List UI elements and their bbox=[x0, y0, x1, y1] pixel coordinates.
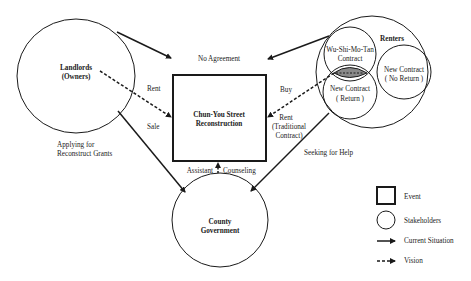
event-sublabel: Reconstruction bbox=[196, 120, 243, 128]
legend-vision-label: Vision bbox=[404, 257, 423, 265]
buy-label: Buy bbox=[280, 86, 292, 94]
legend-current-label: Current Situation bbox=[404, 237, 454, 245]
seeking-help-label: Seeking for Help bbox=[304, 149, 354, 157]
arrow-renters-event-vision bbox=[268, 73, 334, 117]
rent-right-label-1: Rent bbox=[279, 114, 293, 122]
counseling-label: Counseling bbox=[223, 167, 256, 175]
legend-stakeholders-label: Stakeholders bbox=[404, 217, 441, 225]
landlords-label: Landlords bbox=[60, 64, 92, 72]
sale-label: Sale bbox=[147, 123, 159, 131]
new-no-return-label: New Contract bbox=[384, 66, 424, 74]
rent-right-label-3: Contract) bbox=[275, 132, 303, 140]
arrow-renters-no-agreement bbox=[268, 36, 329, 59]
legend-event-label: Event bbox=[404, 193, 421, 201]
new-no-return-sublabel: ( No Return ) bbox=[385, 75, 424, 83]
event-label: Chun-You Street bbox=[193, 111, 245, 119]
applying-label-2: Reconstruct Grants bbox=[57, 150, 112, 158]
assistant-label: Assistant bbox=[187, 167, 213, 175]
no-agreement-label: No Agreement bbox=[198, 55, 240, 63]
legend-stakeholders-icon bbox=[377, 211, 395, 229]
arrow-landlords-event-vision bbox=[100, 71, 171, 117]
wu-shi-mo-tan-sublabel: Contract bbox=[338, 55, 363, 63]
legend-event-icon bbox=[377, 187, 395, 204]
event-box: Chun-You Street Reconstruction bbox=[173, 75, 266, 161]
new-return-label: New Contract bbox=[330, 85, 370, 93]
stakeholder-diagram: Landlords (Owners) Chun-You Street Recon… bbox=[0, 0, 471, 281]
county-sublabel: Government bbox=[201, 227, 240, 235]
rent-left-label: Rent bbox=[147, 85, 161, 93]
legend: Event Stakeholders Current Situation Vis… bbox=[377, 187, 454, 265]
wu-shi-mo-tan-label: Wu-Shi-Mo-Tan bbox=[326, 46, 374, 54]
renters-title: Renters bbox=[380, 35, 404, 43]
landlords-sublabel: (Owners) bbox=[62, 73, 91, 81]
rent-right-label-2: (Traditional bbox=[272, 123, 306, 131]
landlords-stakeholder: Landlords (Owners) bbox=[17, 19, 135, 133]
applying-label-1: Applying for bbox=[57, 141, 95, 149]
new-return-sublabel: ( Return ) bbox=[336, 95, 365, 103]
county-stakeholder: County Government bbox=[172, 173, 268, 267]
renters-stakeholder: Renters Wu-Shi-Mo-Tan Contract New Contr… bbox=[316, 16, 431, 128]
county-label: County bbox=[209, 218, 232, 226]
